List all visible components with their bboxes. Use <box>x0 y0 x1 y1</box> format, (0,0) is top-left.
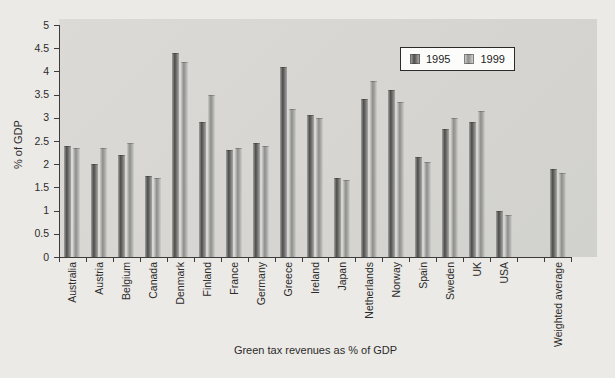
y-tick-label: 4 <box>17 65 49 78</box>
x-tick <box>302 258 303 262</box>
bar-1995-Australia <box>64 146 71 257</box>
x-tick <box>436 258 437 262</box>
y-tick <box>54 164 59 165</box>
category-label: Australia <box>66 262 78 303</box>
y-tick <box>54 211 59 212</box>
bar-1999-Ireland <box>316 118 323 257</box>
bar-1999-UK <box>478 111 485 257</box>
x-axis <box>59 257 572 258</box>
bar-chart-figure: 00.511.522.533.544.55 AustraliaAustriaBe… <box>0 0 615 378</box>
bar-1995-Greece <box>280 67 287 257</box>
category-label: Japan <box>336 262 348 291</box>
y-tick <box>54 95 59 96</box>
category-label: Austria <box>93 262 105 295</box>
y-axis <box>59 25 60 257</box>
y-tick-label: 1.5 <box>17 181 49 194</box>
x-tick <box>328 258 329 262</box>
bar-1995-Spain <box>415 157 422 257</box>
bar-1995-Ireland <box>307 115 314 257</box>
bar-1995-Netherlands <box>361 99 368 257</box>
y-tick <box>54 141 59 142</box>
category-label: Sweden <box>444 262 456 300</box>
bar-1999-Denmark <box>181 62 188 257</box>
x-tick <box>86 258 87 262</box>
x-tick <box>221 258 222 262</box>
legend-label-1995: 1995 <box>426 53 450 65</box>
legend-swatch-1999 <box>464 54 474 64</box>
y-tick <box>54 48 59 49</box>
category-label: Germany <box>255 262 267 305</box>
y-tick <box>54 71 59 72</box>
legend: 1995 1999 <box>400 47 515 71</box>
bar-1995-Sweden <box>442 129 449 257</box>
y-tick <box>54 118 59 119</box>
x-tick <box>167 258 168 262</box>
x-tick <box>544 258 545 262</box>
legend-item-1995: 1995 <box>410 53 450 65</box>
category-label: Greece <box>282 262 294 296</box>
plot-area <box>59 19 597 257</box>
bar-1999-Japan <box>343 180 350 257</box>
bar-1995-Finland <box>199 122 206 257</box>
bar-1995-France <box>226 150 233 257</box>
x-tick <box>463 258 464 262</box>
y-tick-label: 1 <box>17 204 49 217</box>
bar-1999-Belgium <box>127 143 134 257</box>
x-tick <box>275 258 276 262</box>
bar-1995-UK <box>469 122 476 257</box>
x-tick <box>59 258 60 262</box>
category-label: Netherlands <box>363 262 375 319</box>
bar-1995-Denmark <box>172 53 179 257</box>
y-tick-label: 3.5 <box>17 88 49 101</box>
category-label: Norway <box>390 262 402 298</box>
bar-1995-Weighted average <box>550 169 557 257</box>
category-label: Canada <box>147 262 159 299</box>
bar-1995-Belgium <box>118 155 125 257</box>
x-tick <box>490 258 491 262</box>
y-tick-label: 0 <box>17 251 49 264</box>
category-label: Belgium <box>120 262 132 300</box>
x-tick <box>113 258 114 262</box>
category-label: USA <box>498 262 510 284</box>
bar-1999-Norway <box>397 102 404 257</box>
x-tick <box>517 258 518 262</box>
scanned-page: 00.511.522.533.544.55 AustraliaAustriaBe… <box>0 0 615 378</box>
x-tick <box>382 258 383 262</box>
bar-1999-USA <box>505 215 512 257</box>
category-label: Weighted average <box>552 262 564 347</box>
bar-1995-Japan <box>334 178 341 257</box>
category-label: Spain <box>417 262 429 289</box>
bar-1999-Finland <box>208 95 215 257</box>
category-label: UK <box>471 262 483 277</box>
x-axis-caption: Green tax revenues as % of GDP <box>59 344 572 356</box>
category-label: Ireland <box>309 262 321 294</box>
category-label: France <box>228 262 240 295</box>
y-tick <box>54 25 59 26</box>
x-tick <box>409 258 410 262</box>
x-tick <box>140 258 141 262</box>
y-axis-title: % of GDP <box>12 120 25 169</box>
x-tick <box>194 258 195 262</box>
y-tick-label: 0.5 <box>17 227 49 240</box>
category-label: Finland <box>201 262 213 296</box>
bar-1999-Netherlands <box>370 81 377 257</box>
bar-1999-Weighted average <box>559 173 566 257</box>
bar-1999-Spain <box>424 162 431 257</box>
x-tick <box>248 258 249 262</box>
legend-item-1999: 1999 <box>464 53 504 65</box>
bar-1999-Greece <box>289 109 296 257</box>
y-tick-label: 4.5 <box>17 42 49 55</box>
x-tick <box>571 258 572 262</box>
y-tick-label: 5 <box>17 19 49 32</box>
bar-1999-Sweden <box>451 118 458 257</box>
bar-1999-France <box>235 148 242 257</box>
legend-swatch-1995 <box>410 54 420 64</box>
bar-1995-Canada <box>145 176 152 257</box>
x-tick <box>355 258 356 262</box>
bar-1999-Austria <box>100 148 107 257</box>
bar-1995-USA <box>496 211 503 257</box>
bar-1995-Austria <box>91 164 98 257</box>
bar-1995-Germany <box>253 143 260 257</box>
bar-1999-Canada <box>154 178 161 257</box>
y-tick <box>54 187 59 188</box>
